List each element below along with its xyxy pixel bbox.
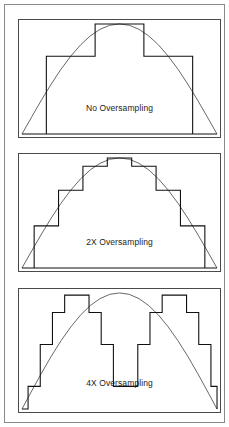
panel-2x-oversampling-plot [19,154,220,271]
staircase-waveform [22,295,217,409]
outer-frame: No Oversampling 2X Oversampling 4X Overs… [4,4,225,423]
ideal-curve [22,158,217,268]
staircase-waveform [22,158,217,268]
ideal-curve [22,293,217,409]
panel-4x-oversampling-plot [19,289,220,412]
panel-no-oversampling: No Oversampling [18,19,221,138]
panel-2x-oversampling: 2X Oversampling [18,153,221,272]
panel-4x-oversampling: 4X Oversampling [18,288,221,413]
oversampling-figure: No Oversampling 2X Oversampling 4X Overs… [0,0,229,427]
panel-no-oversampling-plot [19,20,220,137]
staircase-waveform [22,24,217,134]
ideal-curve [22,24,217,134]
